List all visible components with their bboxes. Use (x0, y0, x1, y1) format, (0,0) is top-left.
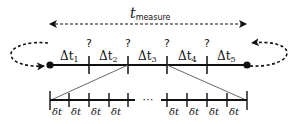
right-loop-arrow (250, 42, 287, 66)
diagram-svg: tmeasure ? ? ? ? Δt1 Δt2 Δt3 Δt4 Δt5 ⋯ (0, 0, 298, 124)
interval-label-4: Δt4 (178, 49, 197, 64)
sub-interval-label: δt (91, 106, 102, 117)
end-dot (243, 61, 250, 68)
sub-interval-label: δt (52, 106, 63, 117)
t-measure-label: tmeasure (130, 5, 171, 22)
sub-interval-labels-right: δt δt δt δt (169, 106, 240, 117)
boundary-mark-3: ? (164, 37, 170, 50)
ellipsis: ⋯ (143, 93, 154, 106)
boundary-mark-1: ? (86, 37, 92, 50)
boundary-mark-2: ? (125, 37, 131, 50)
left-loop-arrow (11, 43, 48, 67)
sub-interval-label: δt (189, 106, 200, 117)
timing-diagram: tmeasure ? ? ? ? Δt1 Δt2 Δt3 Δt4 Δt5 ⋯ (0, 0, 298, 124)
start-dot (46, 61, 53, 68)
sub-interval-label: δt (111, 106, 122, 117)
sub-interval-labels-left: δt δt δt δt (52, 106, 122, 117)
sub-interval-label: δt (209, 106, 220, 117)
interval-label-1: Δt1 (60, 49, 79, 64)
interval-label-3: Δt3 (138, 49, 157, 64)
sub-interval-label: δt (71, 106, 82, 117)
boundary-mark-4: ? (204, 37, 210, 50)
interval-label-5: Δt5 (217, 49, 236, 64)
interval-label-2: Δt2 (99, 49, 118, 64)
sub-interval-label: δt (229, 106, 240, 117)
sub-interval-label: δt (169, 106, 180, 117)
